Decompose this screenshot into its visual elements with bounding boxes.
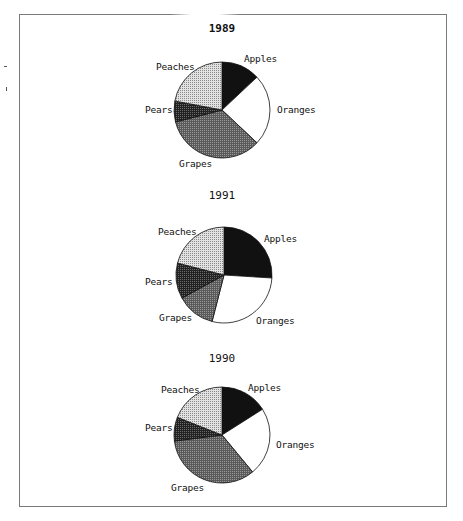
- slice-label-apples: Apples: [244, 53, 277, 64]
- slice-label-pears: Pears: [145, 422, 173, 433]
- frame-top-gap: [170, 12, 240, 17]
- slice-label-oranges: Oranges: [276, 439, 315, 450]
- slice-label-peaches: Peaches: [161, 384, 200, 395]
- edge-mark: [4, 66, 7, 67]
- chart-page: 1989ApplesOrangesGrapesPearsPeaches1991A…: [0, 0, 463, 521]
- chart-title: 1989: [182, 22, 262, 35]
- pie-chart: [174, 225, 274, 325]
- slice-label-oranges: Oranges: [277, 104, 316, 115]
- edge-mark: [6, 87, 7, 91]
- slice-label-grapes: Grapes: [171, 482, 204, 493]
- chart-title: 1990: [182, 352, 262, 365]
- pie-chart: [172, 385, 272, 485]
- slice-label-grapes: Grapes: [159, 312, 192, 323]
- slice-label-grapes: Grapes: [179, 158, 212, 169]
- slice-label-oranges: Oranges: [256, 315, 295, 326]
- pie-chart: [172, 60, 272, 160]
- slice-label-apples: Apples: [264, 233, 297, 244]
- slice-label-peaches: Peaches: [158, 226, 197, 237]
- slice-label-peaches: Peaches: [156, 61, 195, 72]
- slice-label-pears: Pears: [145, 104, 173, 115]
- chart-title: 1991: [182, 189, 262, 202]
- slice-label-pears: Pears: [145, 276, 173, 287]
- slice-label-apples: Apples: [248, 382, 281, 393]
